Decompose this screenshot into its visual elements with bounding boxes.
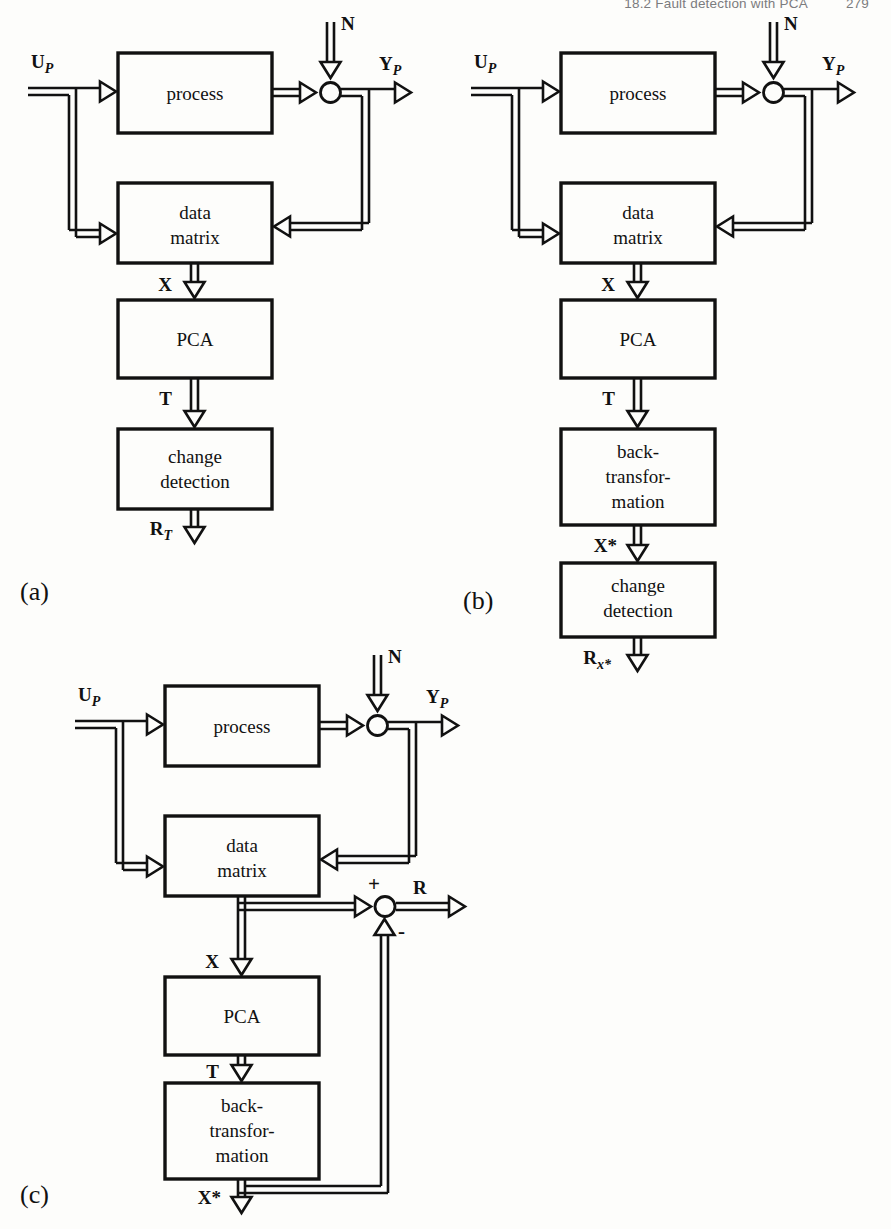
- wire-noise-n: [327, 22, 334, 62]
- block-label-matrix: matrix: [217, 860, 267, 881]
- arrowhead-output-y: [395, 83, 411, 103]
- arrowhead-r: [449, 897, 465, 917]
- arrowhead-xstar: [232, 1197, 252, 1213]
- panel-label-b: (b): [463, 586, 493, 615]
- arrowhead-x: [232, 959, 252, 975]
- signal-label-y: YP: [822, 53, 845, 78]
- block-diagram-canvas: process data matrix PCA change detection…: [0, 0, 891, 1229]
- signal-label-y: YP: [426, 686, 449, 711]
- arrowhead-u-to-process: [543, 82, 559, 102]
- arrowhead-x-into-difference: [355, 897, 371, 917]
- block-label-transfor: transfor-: [605, 466, 670, 487]
- arrowhead-u-to-data-matrix: [100, 224, 116, 244]
- block-label-change: change: [611, 575, 665, 596]
- block-label-mation: mation: [216, 1145, 269, 1166]
- wire-data-matrix-x: [191, 263, 198, 282]
- arrowhead-output-y: [838, 83, 854, 103]
- arrowhead-t: [232, 1065, 252, 1081]
- arrowhead-feedback-to-data-matrix: [274, 217, 290, 237]
- block-label-data: data: [226, 835, 258, 856]
- wire-input-u: [28, 88, 100, 237]
- block-label-process: process: [214, 716, 271, 737]
- block-label-pca: PCA: [224, 1006, 261, 1027]
- block-label-matrix: matrix: [170, 227, 220, 248]
- block-label-pca: PCA: [620, 329, 657, 350]
- arrowhead-u-to-process: [147, 715, 163, 735]
- arrowhead-u-to-process: [100, 82, 116, 102]
- wire-process-to-junction: [715, 89, 743, 96]
- arrowhead-t: [628, 411, 648, 427]
- panel-label-a: (a): [20, 577, 49, 606]
- arrowhead-feedback-to-data-matrix: [717, 217, 733, 237]
- block-label-back: back-: [221, 1095, 263, 1116]
- wire-input-u: [471, 88, 543, 237]
- block-label-change: change: [168, 446, 222, 467]
- block-data-matrix: [165, 816, 319, 896]
- arrowhead-xstar: [628, 545, 648, 561]
- block-change-detection: [118, 429, 272, 509]
- arrowhead-t: [185, 411, 205, 427]
- wire-output-y: [337, 722, 442, 863]
- junction-sign-minus: -: [398, 919, 405, 943]
- signal-label-n: N: [388, 646, 402, 667]
- arrowhead-into-junction: [347, 716, 363, 736]
- wire-process-to-junction: [319, 722, 347, 729]
- wire-process-to-junction: [272, 89, 300, 96]
- wire-residual-rt: [191, 509, 198, 527]
- signal-label-n: N: [341, 13, 355, 34]
- arrowhead-noise-into-junction: [368, 695, 388, 711]
- arrowhead-u-to-data-matrix: [543, 224, 559, 244]
- signal-label-xstar: X*: [594, 535, 617, 556]
- signal-label-r: R: [413, 877, 427, 898]
- junction-sign-plus: +: [368, 872, 380, 896]
- signal-label-u: UP: [474, 51, 497, 76]
- panel-a: process data matrix PCA change detection…: [20, 13, 411, 606]
- signal-label-xstar: X*: [198, 1187, 221, 1208]
- block-label-pca: PCA: [177, 329, 214, 350]
- signal-label-y: YP: [379, 53, 402, 78]
- signal-label-u: UP: [31, 51, 54, 76]
- difference-junction: [375, 897, 395, 917]
- signal-label-t: T: [602, 388, 615, 409]
- arrowhead-noise-into-junction: [321, 62, 341, 78]
- panel-c: process data matrix PCA back- transfor- …: [20, 646, 465, 1213]
- signal-label-t: T: [206, 1061, 219, 1082]
- block-label-process: process: [610, 83, 667, 104]
- block-label-detection: detection: [603, 600, 673, 621]
- signal-label-n: N: [784, 13, 798, 34]
- arrowhead-u-to-data-matrix: [147, 857, 163, 877]
- block-label-mation: mation: [612, 491, 665, 512]
- block-label-back: back-: [617, 441, 659, 462]
- arrowhead-rt: [185, 527, 205, 543]
- signal-label-rxstar: Rx*: [583, 647, 612, 672]
- wire-noise-n: [374, 655, 381, 695]
- block-label-transfor: transfor-: [209, 1120, 274, 1141]
- arrowhead-x: [185, 282, 205, 298]
- block-label-process: process: [167, 83, 224, 104]
- wire-noise-n: [770, 22, 777, 62]
- block-label-detection: detection: [160, 471, 230, 492]
- panel-b: process data matrix PCA back- transfor- …: [463, 13, 854, 672]
- wire-residual-r: [396, 903, 449, 910]
- signal-label-t: T: [159, 388, 172, 409]
- wire-scores-t: [191, 378, 198, 411]
- wire-output-y: [733, 89, 838, 230]
- wire-data-matrix-x: [634, 263, 641, 282]
- block-label-data: data: [622, 202, 654, 223]
- arrowhead-x: [628, 282, 648, 298]
- figure-page: 18.2 Fault detection with PCA279: [0, 0, 891, 1229]
- wire-residual-rxstar: [634, 637, 641, 655]
- arrowhead-output-y: [442, 716, 458, 736]
- block-data-matrix: [561, 183, 715, 263]
- arrowhead-into-junction: [743, 83, 759, 103]
- arrowhead-rxstar: [628, 655, 648, 671]
- block-data-matrix: [118, 183, 272, 263]
- block-label-data: data: [179, 202, 211, 223]
- arrowhead-noise-into-junction: [764, 62, 784, 78]
- sum-junction: [368, 716, 388, 736]
- sum-junction: [321, 83, 341, 103]
- wire-input-u: [75, 721, 147, 870]
- wire-output-y: [290, 89, 395, 230]
- arrowhead-feedback-to-data-matrix: [321, 850, 337, 870]
- signal-label-x: X: [601, 274, 615, 295]
